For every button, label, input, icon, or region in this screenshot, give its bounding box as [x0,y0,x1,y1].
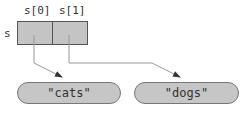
string-object-cats: "cats" [17,82,121,104]
arrow-cell0-to-cats [34,35,62,77]
string-value: "dogs" [165,86,208,100]
string-value: "cats" [47,86,90,100]
string-object-dogs: "dogs" [134,82,239,104]
arrow-cell1-to-dogs [69,35,180,77]
